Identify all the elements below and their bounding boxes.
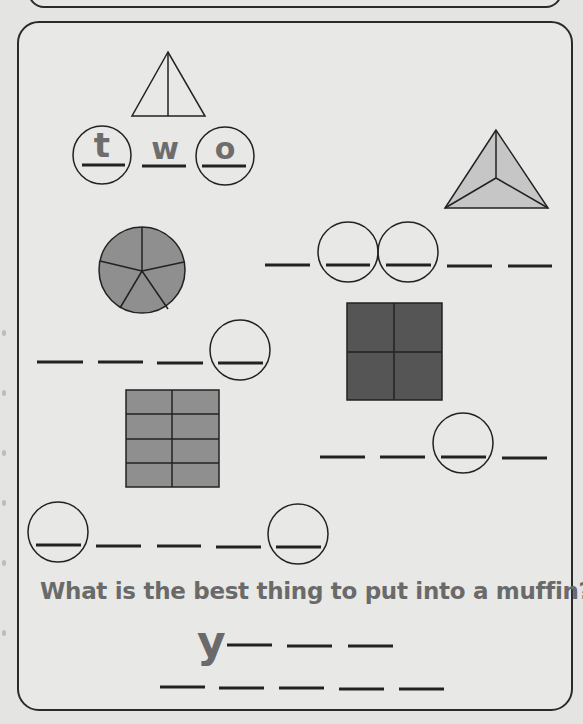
circle-fifths-icon <box>99 227 185 313</box>
pyramid-thirds-icon <box>445 130 548 208</box>
circle-answer-blanks <box>37 320 270 380</box>
example-letter-t: t <box>88 128 116 162</box>
square-answer-blanks <box>320 413 547 473</box>
example-letter-w: w <box>146 134 184 164</box>
pyramid-answer-blanks <box>265 222 552 282</box>
triangle-halves-icon <box>132 52 205 116</box>
square-fourths-icon <box>347 303 442 400</box>
rectangle-answer-blanks <box>28 502 328 564</box>
answer-first-letter: y <box>197 620 226 664</box>
riddle-question: What is the best thing to put into a muf… <box>40 578 580 604</box>
worksheet-art <box>0 0 583 724</box>
rectangle-eighths-icon <box>126 390 219 487</box>
example-letter-o: o <box>209 134 241 164</box>
